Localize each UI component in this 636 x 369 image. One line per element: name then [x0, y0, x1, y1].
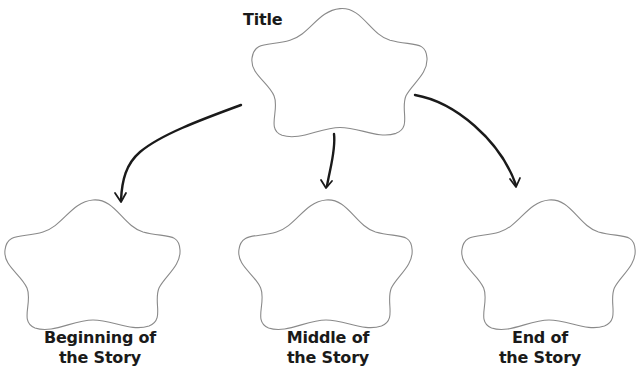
beginning-label: Beginning of the Story: [20, 328, 180, 368]
arrow-to-end-icon: [415, 95, 520, 187]
end-label-line-2: the Story: [470, 348, 610, 368]
diagram-graphics: [0, 0, 636, 369]
arrow-to-beginning-icon: [115, 105, 241, 202]
end-label: End of the Story: [470, 328, 610, 368]
title-label-line: Title: [243, 10, 303, 30]
middle-cloud[interactable]: [239, 200, 412, 330]
middle-label-line-2: the Story: [248, 348, 408, 368]
end-cloud[interactable]: [462, 200, 635, 330]
beginning-label-line-2: the Story: [20, 348, 180, 368]
end-label-line-1: End of: [470, 328, 610, 348]
arrow-to-middle-icon: [321, 134, 334, 188]
beginning-cloud[interactable]: [5, 200, 180, 330]
middle-label: Middle of the Story: [248, 328, 408, 368]
title-label: Title: [243, 10, 303, 30]
beginning-label-line-1: Beginning of: [20, 328, 180, 348]
story-map-diagram: Title Beginning of the Story Middle of t…: [0, 0, 636, 369]
middle-label-line-1: Middle of: [248, 328, 408, 348]
